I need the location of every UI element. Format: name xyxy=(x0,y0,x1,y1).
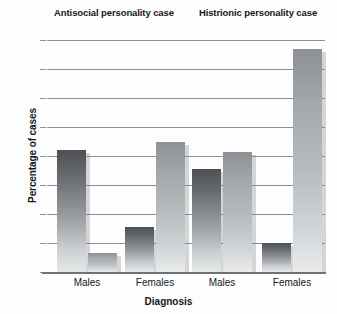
y-axis-tick xyxy=(40,69,46,70)
y-axis-tick xyxy=(40,98,46,99)
group-title-histrionic: Histrionic personality case xyxy=(196,7,320,19)
bar xyxy=(293,49,322,272)
y-axis-tick xyxy=(40,40,46,41)
x-axis-title: Diagnosis xyxy=(0,296,337,307)
y-axis-tick xyxy=(40,243,46,244)
bar-chart: Antisocial personality case Histrionic p… xyxy=(0,0,337,314)
bar xyxy=(156,142,185,273)
bar xyxy=(192,169,221,272)
gridline xyxy=(47,127,325,128)
y-axis-tick xyxy=(40,214,46,215)
bar xyxy=(223,152,252,272)
gridline xyxy=(47,69,325,70)
y-axis-tick xyxy=(40,156,46,157)
bar xyxy=(88,253,117,272)
x-axis-tick-label: Males xyxy=(182,277,262,288)
x-axis-line xyxy=(42,272,326,274)
bar xyxy=(125,227,154,272)
bar xyxy=(262,243,291,272)
y-axis-tick xyxy=(40,185,46,186)
group-title-antisocial: Antisocial personality case xyxy=(52,7,176,19)
y-axis-title: Percentage of cases xyxy=(27,76,38,236)
x-axis-tick-label: Females xyxy=(252,277,332,288)
bar xyxy=(57,150,86,272)
y-axis-tick xyxy=(40,127,46,128)
gridline xyxy=(47,98,325,99)
gridline xyxy=(47,40,325,41)
plot-area: 01020304050607080 xyxy=(47,40,325,272)
